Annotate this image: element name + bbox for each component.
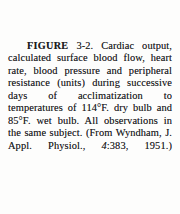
scanned-page: FIGURE 3-2. Cardiac output, calculated s… <box>0 0 180 214</box>
figure-number: 3-2. <box>76 40 93 51</box>
figure-caption-text: FIGURE 3-2. Cardiac output, calculated s… <box>8 40 172 165</box>
caption-body-after-volume: :383, 1951.) <box>107 140 172 151</box>
figure-label: FIGURE <box>27 40 68 51</box>
caption-body-primary <box>93 40 101 51</box>
page-bottom-margin <box>0 162 180 214</box>
figure-caption-block: FIGURE 3-2. Cardiac output, calculated s… <box>8 40 172 165</box>
page-top-margin <box>0 0 180 40</box>
caption-body-before-volume: Cardiac output, calculated surface blood… <box>8 40 172 151</box>
